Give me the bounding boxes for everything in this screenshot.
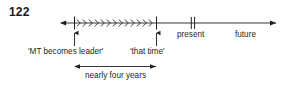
- label-mt-becomes-leader: 'MT becomes leader': [28, 47, 103, 57]
- label-nearly-four-years: nearly four years: [85, 71, 146, 81]
- label-that-time: 'that time': [130, 47, 165, 57]
- figure-container: 122: [0, 0, 290, 87]
- label-present: present: [177, 30, 204, 40]
- label-future: future: [235, 30, 256, 40]
